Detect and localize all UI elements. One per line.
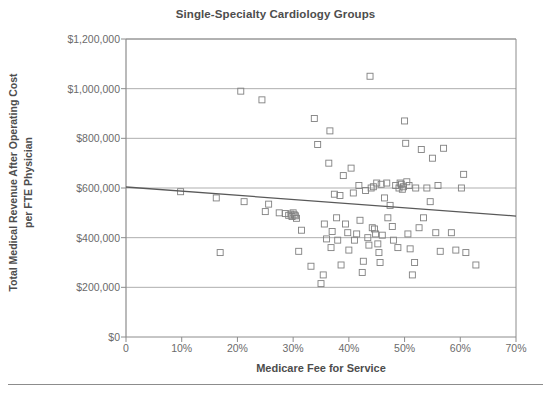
data-point-marker <box>315 142 321 148</box>
data-point-marker <box>473 262 479 268</box>
data-point-marker <box>416 225 422 231</box>
data-point-marker <box>343 221 349 227</box>
data-point-marker <box>395 245 401 251</box>
data-point-marker <box>276 210 282 216</box>
data-point-marker <box>463 250 469 256</box>
x-tick-marks <box>126 337 516 342</box>
data-point-marker <box>448 230 454 236</box>
data-point-marker <box>412 260 418 266</box>
data-point-marker <box>427 199 433 205</box>
data-point-marker <box>259 97 265 103</box>
data-point-marker <box>334 215 340 221</box>
data-point-marker <box>266 201 272 207</box>
trend-line <box>126 187 516 216</box>
data-point-marker <box>418 147 424 153</box>
data-point-marker <box>345 230 351 236</box>
chart-figure: Single-Specialty Cardiology Groups Total… <box>0 0 551 395</box>
data-point-marker <box>217 250 223 256</box>
data-point-marker <box>321 221 327 227</box>
footer-divider <box>8 384 543 385</box>
data-point-marker <box>354 231 360 237</box>
data-point-marker <box>320 272 326 278</box>
data-point-marker <box>366 242 372 248</box>
data-point-marker <box>346 247 352 253</box>
data-point-marker <box>326 160 332 166</box>
data-point-marker <box>384 180 390 186</box>
data-point-marker <box>337 192 343 198</box>
data-point-marker <box>359 269 365 275</box>
data-point-marker <box>375 241 381 247</box>
data-point-marker <box>402 118 408 124</box>
data-point-marker <box>453 247 459 253</box>
trend-line-segment <box>126 187 516 216</box>
data-point-marker <box>405 231 411 237</box>
data-point-marker <box>403 140 409 146</box>
plot-area <box>0 0 551 395</box>
y-tick-marks <box>121 39 126 337</box>
data-point-marker <box>299 227 305 233</box>
data-point-marker <box>241 199 247 205</box>
data-points <box>178 73 479 286</box>
data-point-marker <box>329 228 335 234</box>
data-point-marker <box>296 248 302 254</box>
data-point-marker <box>385 215 391 221</box>
data-point-marker <box>331 191 337 197</box>
data-point-marker <box>441 145 447 151</box>
data-point-marker <box>461 171 467 177</box>
data-point-marker <box>308 263 314 269</box>
data-point-marker <box>324 236 330 242</box>
data-point-marker <box>350 190 356 196</box>
data-point-marker <box>328 245 334 251</box>
data-point-marker <box>389 223 395 229</box>
data-point-marker <box>407 246 413 252</box>
gridlines <box>126 39 516 287</box>
data-point-marker <box>409 272 415 278</box>
data-point-marker <box>327 128 333 134</box>
data-point-marker <box>338 262 344 268</box>
data-point-marker <box>421 215 427 221</box>
data-point-marker <box>367 73 373 79</box>
data-point-marker <box>340 173 346 179</box>
data-point-marker <box>360 258 366 264</box>
data-point-marker <box>433 230 439 236</box>
data-point-marker <box>376 250 382 256</box>
data-point-marker <box>437 248 443 254</box>
data-point-marker <box>213 195 219 201</box>
data-point-marker <box>311 115 317 121</box>
data-point-marker <box>318 281 324 287</box>
data-point-marker <box>429 155 435 161</box>
data-point-marker <box>262 209 268 215</box>
data-point-marker <box>348 165 354 171</box>
data-point-marker <box>382 195 388 201</box>
data-point-marker <box>357 217 363 223</box>
data-point-marker <box>377 260 383 266</box>
